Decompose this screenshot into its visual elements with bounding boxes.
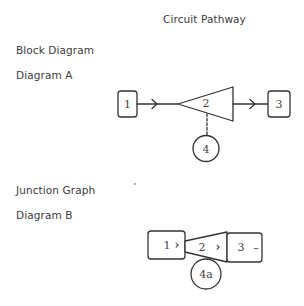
node-label: 2 — [199, 241, 206, 254]
node-label: 1 — [124, 98, 131, 111]
node-label: 4a — [199, 268, 213, 281]
diagram-b-node-3: 3 – — [227, 233, 262, 262]
node-label: 3 — [276, 98, 283, 111]
diagram-a-node-1: 1 — [118, 91, 137, 117]
diagram-b-node-2: 2 › — [185, 232, 227, 262]
diagram-a-node-3: 3 — [268, 91, 290, 117]
chevron-right-icon: › — [216, 240, 221, 254]
diagram-a: 1 2 3 — [118, 87, 290, 162]
diagram-a-node-4: 4 — [193, 136, 219, 162]
diagram-b-node-4a: 4a — [191, 259, 221, 289]
diagram-b-node-1: 1 › — [148, 231, 185, 259]
diagram-a-node-2: 2 — [178, 87, 233, 121]
stray-mark — [135, 184, 136, 185]
node-label: 2 — [203, 97, 210, 110]
node-label: 3 — [238, 241, 245, 254]
diagram-b: 1 › 2 › 3 – 4a — [148, 231, 262, 289]
node-label: 4 — [203, 143, 210, 156]
diagram-a-edge-2-3 — [233, 100, 268, 109]
dash-icon: – — [253, 241, 259, 254]
diagram-canvas: 1 2 3 — [0, 0, 304, 306]
diagram-a-edge-1-2 — [137, 100, 178, 109]
node-label: 1 — [164, 239, 171, 252]
chevron-right-icon: › — [175, 238, 180, 252]
